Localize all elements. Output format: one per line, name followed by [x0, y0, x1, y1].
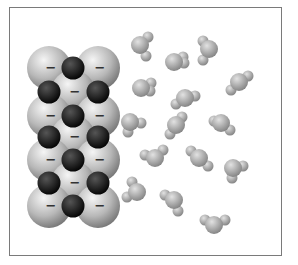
- cation: [87, 126, 110, 149]
- ionic-crystal-lattice: −−−−−−−−−−−: [27, 46, 120, 228]
- water-molecule: [224, 159, 249, 184]
- cation: [62, 57, 85, 80]
- cation: [38, 172, 61, 195]
- minus-sign-label: −: [70, 129, 81, 144]
- minus-sign-label: −: [46, 152, 57, 167]
- oxygen-atom: [176, 89, 194, 107]
- oxygen-atom: [146, 149, 164, 167]
- oxygen-atom: [190, 149, 208, 167]
- water-molecule: [122, 177, 147, 203]
- oxygen-atom: [165, 191, 183, 209]
- minus-sign-label: −: [95, 152, 106, 167]
- water-molecule: [140, 145, 169, 168]
- oxygen-atom: [165, 53, 183, 71]
- water-molecule: [165, 112, 188, 140]
- oxygen-atom: [205, 216, 223, 234]
- diagram-canvas: −−−−−−−−−−−: [0, 0, 298, 265]
- minus-sign-label: −: [95, 108, 106, 123]
- oxygen-atom: [212, 114, 230, 132]
- minus-sign-label: −: [46, 108, 57, 123]
- oxygen-atom: [132, 79, 150, 97]
- water-molecule: [209, 114, 236, 136]
- cation: [62, 105, 85, 128]
- water-molecule: [131, 32, 154, 62]
- minus-sign-label: −: [70, 175, 81, 190]
- water-molecule: [132, 78, 157, 98]
- oxygen-atom: [230, 73, 248, 91]
- water-molecule: [186, 146, 214, 172]
- oxygen-atom: [121, 113, 139, 131]
- cation: [87, 81, 110, 104]
- minus-sign-label: −: [95, 198, 106, 213]
- water-molecule: [165, 52, 190, 72]
- water-molecule: [160, 190, 184, 217]
- oxygen-atom: [167, 116, 185, 134]
- minus-sign-label: −: [70, 84, 81, 99]
- oxygen-atom: [200, 40, 218, 58]
- water-molecule: [200, 215, 231, 235]
- cation: [38, 81, 61, 104]
- cation: [62, 149, 85, 172]
- oxygen-atom: [128, 183, 146, 201]
- minus-sign-label: −: [46, 60, 57, 75]
- water-molecule: [121, 113, 147, 138]
- cation: [38, 126, 61, 149]
- water-molecule: [171, 89, 201, 110]
- minus-sign-label: −: [95, 60, 106, 75]
- minus-sign-label: −: [46, 198, 57, 213]
- cation: [62, 195, 85, 218]
- water-molecules: [121, 32, 254, 235]
- oxygen-atom: [224, 159, 242, 177]
- oxygen-atom: [131, 36, 149, 54]
- water-molecule: [226, 71, 254, 96]
- cation: [87, 172, 110, 195]
- water-molecule: [198, 36, 219, 66]
